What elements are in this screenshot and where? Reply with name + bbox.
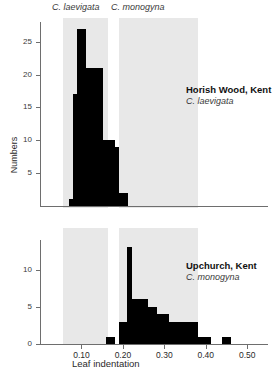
histogram-bar: [206, 337, 211, 344]
x-tick-label: 0.50: [235, 350, 259, 360]
y-axis-title: Numbers: [9, 125, 19, 185]
annotation-horish-wood: Horish Wood, Kent C. laevigata: [186, 84, 271, 106]
x-axis-title: Leaf indentation: [72, 358, 140, 369]
annotation-upchurch: Upchurch, Kent C. monogyna: [186, 260, 257, 282]
chart-canvas: C. laevigata C. monogyna 510152025 05100…: [0, 0, 273, 372]
x-tick: [206, 345, 207, 349]
annotation-species-top: C. laevigata: [186, 96, 271, 106]
x-tick: [123, 345, 124, 349]
y-tick: [36, 140, 40, 141]
top-panel-baseline: [40, 206, 268, 207]
y-tick-label: 10: [6, 265, 32, 274]
x-tick-label: 0.30: [152, 350, 176, 360]
bottom-panel-baseline: [40, 344, 268, 345]
bottom-panel-y-axis: [40, 240, 41, 344]
column-header-laevigata: C. laevigata: [52, 2, 100, 12]
y-tick: [36, 173, 40, 174]
y-tick: [36, 270, 40, 271]
y-tick: [36, 307, 40, 308]
y-tick: [36, 75, 40, 76]
x-tick: [81, 345, 82, 349]
y-tick: [36, 107, 40, 108]
column-header-monogyna: C. monogyna: [111, 2, 165, 12]
x-tick: [164, 345, 165, 349]
y-tick: [36, 344, 40, 345]
histogram-bar: [227, 337, 232, 344]
histogram-bar: [110, 337, 115, 344]
y-tick-label: 5: [6, 302, 32, 311]
y-tick: [36, 42, 40, 43]
top-panel-y-axis: [40, 22, 41, 206]
reference-band-monogyna-top: [119, 18, 198, 208]
y-tick-label: 20: [6, 70, 32, 79]
y-tick-label: 25: [6, 37, 32, 46]
x-tick: [247, 345, 248, 349]
annotation-site-top: Horish Wood, Kent: [186, 84, 271, 95]
reference-band-laevigata-bottom: [63, 228, 109, 345]
x-tick-label: 0.40: [194, 350, 218, 360]
y-tick-label: 0: [6, 339, 32, 348]
annotation-site-bottom: Upchurch, Kent: [186, 260, 257, 271]
annotation-species-bottom: C. monogyna: [186, 272, 257, 282]
histogram-bar: [123, 193, 128, 206]
y-tick-label: 15: [6, 102, 32, 111]
